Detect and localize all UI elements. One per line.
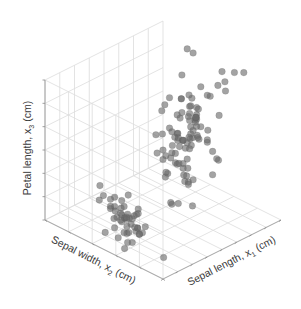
data-point [102,229,109,236]
data-point [180,172,187,179]
data-point [117,217,124,224]
data-point [215,157,222,164]
data-point [185,165,192,172]
data-point [121,245,128,252]
x-axis-label-unit: (cm) [253,233,277,253]
data-point [186,92,193,99]
data-point [179,109,186,116]
data-point [195,106,202,113]
data-point [204,137,211,144]
data-point [136,231,143,238]
data-point [178,96,185,103]
data-point [231,69,238,76]
data-point [186,103,193,110]
data-point [219,68,226,75]
z-axis-label-unit: (cm) [21,101,33,122]
data-point [96,197,103,204]
data-point [169,142,176,149]
y-axis-label-unit: (cm) [114,266,138,286]
data-point [154,150,161,157]
data-point [160,147,167,154]
data-point [186,134,193,141]
data-point [97,182,104,189]
data-point [111,225,118,232]
data-point [118,197,125,204]
data-point [153,132,160,139]
scatter-3d-chart: Petal length, x3 (cm) Sepal width, x2 (c… [0,0,301,309]
x-axis-label-text: Sepal length, x [185,245,253,288]
data-point [222,79,229,86]
data-point [193,123,200,130]
data-point [193,114,200,121]
x-axis-tick [161,279,163,281]
data-point [123,214,130,221]
data-point [166,94,173,101]
data-point [222,88,229,95]
data-point [117,210,124,217]
data-point [190,177,197,184]
data-point [189,203,196,210]
data-point [185,113,192,120]
data-point [186,146,193,153]
data-point [159,108,166,115]
data-point [176,143,183,150]
data-point [215,82,222,89]
data-point [180,137,187,144]
data-point [190,50,197,57]
data-point [172,150,179,157]
z-axis-label-text: Petal length, x [21,128,33,195]
data-point [169,128,176,135]
data-point [176,160,183,167]
y-axis-label-text: Sepal width, x [50,233,114,274]
z-axis-label: Petal length, x3 (cm) [21,101,35,195]
data-point [125,192,132,199]
data-point [184,46,191,53]
data-point [111,215,118,222]
data-point [175,200,182,207]
data-point [204,92,211,99]
data-point [115,235,122,242]
data-point [131,224,138,231]
data-point [124,223,131,230]
data-point [126,229,133,236]
data-point [205,127,212,134]
data-point [241,69,248,76]
data-point [209,148,216,155]
data-point [209,172,216,179]
data-point [195,134,202,141]
data-point [179,72,186,79]
data-point [162,101,169,108]
data-point [159,131,166,138]
data-point [216,112,223,119]
data-point [107,196,114,203]
y-axis-tick [163,279,165,281]
data-point [131,213,138,220]
data-point [142,223,149,230]
data-point [198,84,205,91]
data-point [163,169,170,176]
data-point [160,156,167,163]
data-point [167,199,174,206]
data-point [129,239,136,246]
data-point [160,254,167,261]
